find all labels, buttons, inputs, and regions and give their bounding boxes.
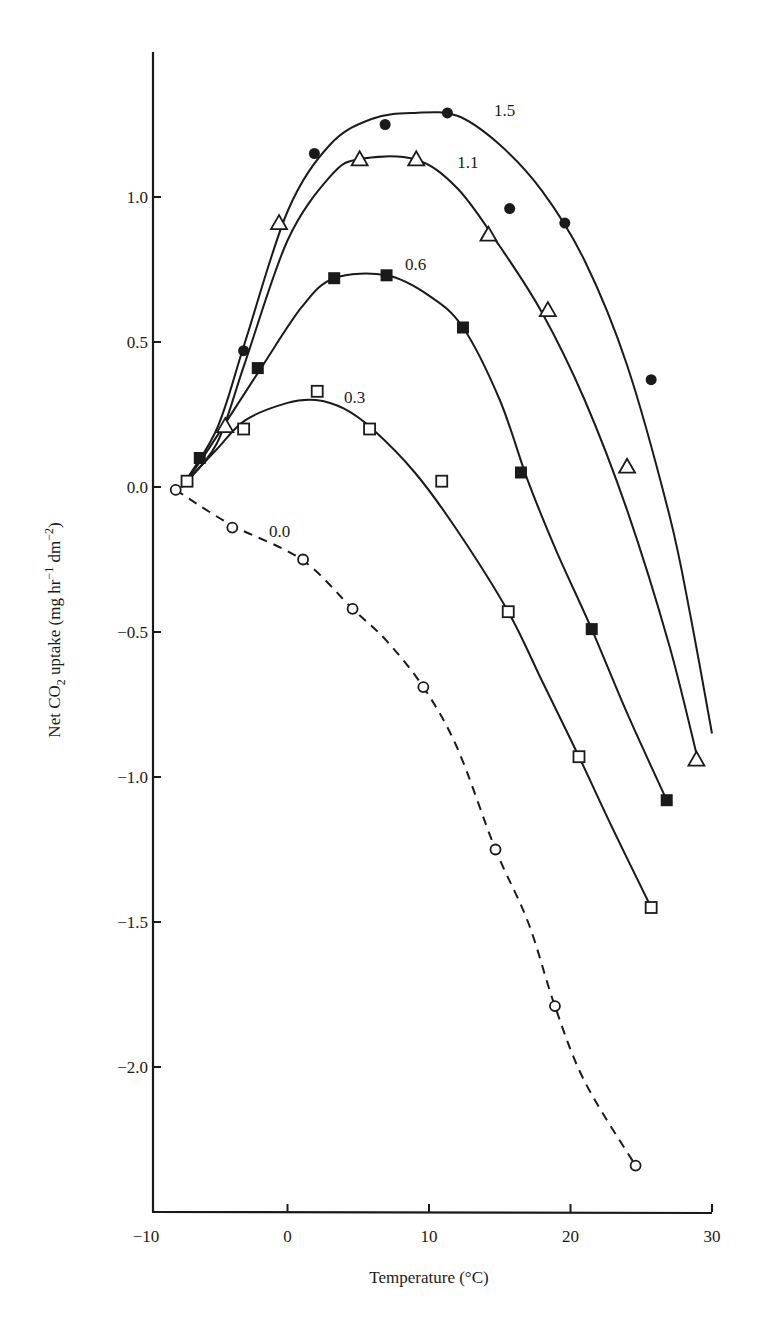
y-tick-label: −2.0 [117, 1058, 148, 1077]
open-circle-marker [418, 682, 428, 692]
filled-square-marker [661, 794, 673, 806]
open-square-marker [182, 476, 193, 487]
open-triangle-marker [619, 459, 635, 473]
filled-circle-marker [646, 374, 657, 385]
filled-circle-marker [442, 107, 453, 118]
open-square-marker [436, 476, 447, 487]
curve-0-6 [181, 274, 666, 801]
y-tick-label: −1.5 [117, 913, 148, 932]
x-tick-label: 0 [283, 1227, 292, 1246]
filled-square-marker [457, 322, 469, 334]
open-circle-marker [227, 523, 237, 533]
filled-circle-marker [238, 345, 249, 356]
open-circle-marker [550, 1001, 560, 1011]
filled-square-marker [381, 269, 393, 281]
filled-square-marker [252, 362, 264, 374]
filled-circle-marker [309, 148, 320, 159]
curve-0-3 [181, 400, 651, 908]
open-circle-marker [171, 485, 181, 495]
chart: 1.00.50.0−0.5−1.0−1.5−2.0−100102030 1.51… [0, 0, 764, 1325]
open-circle-marker [491, 845, 501, 855]
filled-circle-marker [504, 203, 515, 214]
curve-label-1-1: 1.1 [457, 153, 478, 172]
x-axis-line [152, 1212, 712, 1213]
open-square-marker [573, 751, 584, 762]
filled-square-marker [586, 623, 598, 635]
filled-square-marker [194, 452, 206, 464]
y-tick-label: 0.0 [127, 478, 148, 497]
y-tick-label: 0.5 [127, 333, 148, 352]
markers [171, 107, 705, 1170]
open-square-marker [646, 902, 657, 913]
x-tick-label: 10 [421, 1227, 438, 1246]
open-circle-marker [348, 604, 358, 614]
x-tick-label: 30 [704, 1227, 721, 1246]
curve-label-1-5: 1.5 [494, 101, 515, 120]
y-tick-label: −1.0 [117, 768, 148, 787]
open-square-marker [364, 424, 375, 435]
curve-0-0 [176, 490, 636, 1166]
filled-circle-marker [380, 119, 391, 130]
open-square-marker [312, 386, 323, 397]
curve-labels: 1.51.10.60.30.0 [269, 101, 515, 541]
axes: 1.00.50.0−0.5−1.0−1.5−2.0−100102030 [117, 52, 720, 1246]
curve-label-0-3: 0.3 [344, 388, 365, 407]
open-triangle-marker [688, 752, 704, 766]
filled-circle-marker [559, 218, 570, 229]
open-circle-marker [298, 555, 308, 565]
filled-square-marker [515, 467, 527, 479]
y-tick-label: 1.0 [127, 188, 148, 207]
y-axis-title: Net CO2 uptake (mg hr−1 dm−2) [42, 522, 68, 737]
curve-1-5 [181, 112, 712, 733]
open-triangle-marker [540, 302, 556, 316]
x-tick-label: 20 [562, 1227, 579, 1246]
curve-label-0-6: 0.6 [405, 255, 426, 274]
open-square-marker [503, 606, 514, 617]
open-square-marker [238, 424, 249, 435]
curve-1-1 [181, 156, 698, 759]
curve-label-0-0: 0.0 [269, 522, 290, 541]
x-tick-label: −10 [133, 1227, 160, 1246]
curves [176, 112, 712, 1165]
y-tick-label: −0.5 [117, 623, 148, 642]
filled-square-marker [328, 272, 340, 284]
open-circle-marker [631, 1161, 641, 1171]
x-axis-title: Temperature (°C) [369, 1268, 488, 1287]
open-triangle-marker [480, 227, 496, 241]
